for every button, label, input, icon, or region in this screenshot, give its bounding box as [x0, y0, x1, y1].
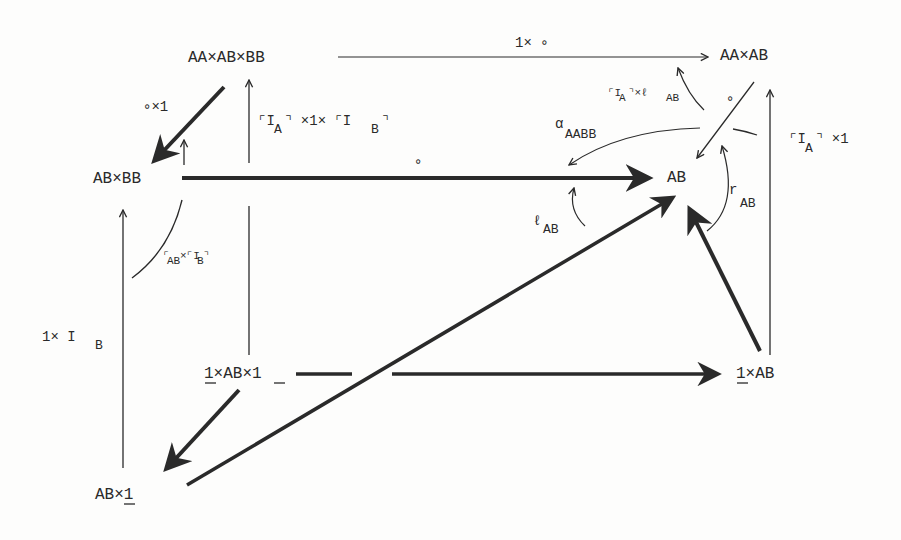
svg-text:⌝ ×1: ⌝ ×1 [815, 131, 849, 147]
svg-text:1×AB×1: 1×AB×1 [204, 365, 262, 383]
svg-text:AB: AB [167, 255, 181, 267]
node-aa-ab: AA×AB [720, 47, 768, 65]
arrow-1ab-to-ab [690, 210, 760, 351]
svg-text:A: A [805, 141, 813, 156]
svg-text:1×AB: 1×AB [736, 365, 774, 383]
arrow-ia-x-lab [678, 68, 704, 110]
label-compose-right: ∘ [726, 91, 734, 107]
label-top: 1× ∘ [515, 35, 549, 51]
node-aa-ab-bb: AA×AB×BB [188, 49, 265, 67]
label-1-ib: 1× I B [42, 329, 103, 353]
label-rab-ib: ⌜ AB ×⌜I B ⌝ [163, 250, 210, 267]
label-comp-x1: ∘×1 [143, 99, 168, 115]
svg-text:AB: AB [740, 196, 756, 211]
svg-text:⌝: ⌝ [203, 250, 210, 262]
svg-text:AB: AB [666, 92, 680, 104]
svg-text:1× I: 1× I [42, 329, 76, 345]
node-ab-bb: AB×BB [93, 170, 141, 188]
commutative-diagram: AA×AB×BB AA×AB AB×BB AB 1×AB×1 1×AB AB×1… [0, 0, 901, 540]
svg-text:⌝: ⌝ [381, 113, 389, 129]
label-ia-x-lab: ⌜I A ⌝×ℓ AB [608, 87, 680, 104]
svg-text:A: A [619, 92, 626, 104]
svg-text:AB×1: AB×1 [95, 486, 133, 504]
svg-text:ℓ: ℓ [533, 213, 541, 229]
arrow-diagonal-long [187, 198, 672, 485]
node-1-ab-1: 1×AB×1 [204, 365, 285, 383]
svg-text:AABB: AABB [565, 127, 596, 142]
label-compose-mid: ∘ [414, 154, 422, 170]
svg-text:⌝×ℓ: ⌝×ℓ [628, 87, 648, 99]
svg-text:B: B [95, 338, 103, 353]
svg-text:B: B [371, 122, 379, 137]
node-ab-1: AB×1 [95, 486, 135, 504]
node-ab: AB [667, 169, 686, 187]
arrow-1ab1-to-ab1 [167, 390, 239, 468]
svg-text:⌜I: ⌜I [789, 131, 806, 147]
svg-text:⌜I: ⌜I [258, 113, 275, 129]
label-ia-1-ib: ⌜I A ⌝ ×1× ⌜I B ⌝ [258, 113, 389, 137]
node-1-ab: 1×AB [736, 365, 774, 383]
label-alpha: α AABB [555, 116, 596, 142]
arrow-lab [572, 188, 585, 226]
label-ia-x1: ⌜I A ⌝ ×1 [789, 131, 849, 156]
arc-right [733, 129, 757, 135]
svg-text:AB: AB [543, 222, 559, 237]
label-lab: ℓ AB [533, 213, 559, 237]
arrow-comp-x1 [155, 87, 224, 160]
svg-text:α: α [555, 116, 563, 132]
svg-text:⌝ ×1× ⌜I: ⌝ ×1× ⌜I [284, 113, 351, 129]
svg-text:r: r [729, 182, 737, 198]
svg-text:A: A [274, 122, 282, 137]
arrow-rab [707, 146, 728, 231]
label-rab: r AB [729, 182, 756, 211]
